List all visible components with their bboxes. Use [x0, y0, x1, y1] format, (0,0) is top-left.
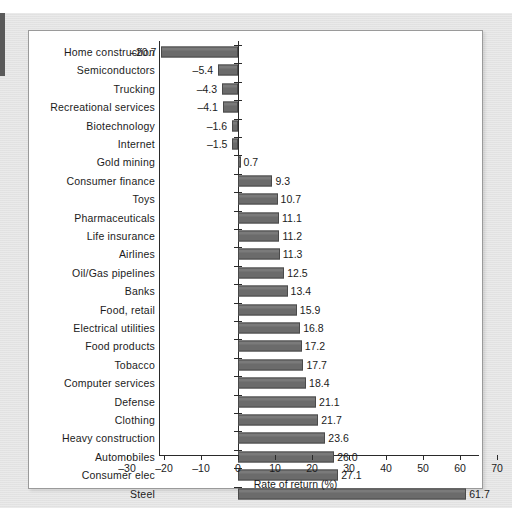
- category-label: Computer services: [64, 377, 155, 389]
- bar: [238, 249, 280, 260]
- bar: [218, 65, 238, 76]
- x-axis-tick: [497, 455, 498, 460]
- bar-chart-row: Food, retail15.9: [29, 301, 482, 319]
- value-label: 18.4: [309, 377, 329, 389]
- bar: [238, 157, 241, 168]
- bar-highlight: [239, 324, 299, 327]
- value-label: 9.3: [275, 175, 290, 187]
- bar-chart-row: Computer services18.4: [29, 374, 482, 392]
- bar-chart-row: Pharmaceuticals11.1: [29, 209, 482, 227]
- bar-highlight: [239, 232, 278, 235]
- x-axis-title: Rate of return (%): [29, 478, 482, 490]
- category-label: Heavy construction: [62, 432, 155, 444]
- value-label: 13.4: [291, 285, 311, 297]
- bar-highlight: [239, 452, 333, 455]
- bar: [238, 194, 278, 205]
- value-label: –4.3: [197, 83, 217, 95]
- category-label: Tobacco: [114, 359, 155, 371]
- category-label: Clothing: [115, 414, 155, 426]
- left-edge-strip: [0, 13, 5, 76]
- category-label: Gold mining: [97, 156, 155, 168]
- bar-highlight: [239, 379, 305, 382]
- x-axis-tick-label: –10: [192, 462, 210, 474]
- bar: [238, 359, 303, 370]
- bar-highlight: [162, 48, 237, 51]
- x-axis-tick-label: 10: [269, 462, 281, 474]
- bar-chart-row: Food products17.2: [29, 337, 482, 355]
- category-label: Food, retail: [100, 304, 155, 316]
- category-label: Defense: [114, 396, 155, 408]
- bar-chart-row: Biotechnology–1.6: [29, 117, 482, 135]
- bar-chart-row: Toys10.7: [29, 190, 482, 208]
- bar-highlight: [223, 84, 237, 87]
- category-label: Oil/Gas pipelines: [72, 267, 155, 279]
- category-label: Banks: [125, 285, 155, 297]
- value-label: 11.2: [282, 230, 302, 242]
- category-label: Electrical utilities: [73, 322, 155, 334]
- x-axis-tick-label: 70: [491, 462, 503, 474]
- page-root: Home construction–20.7Semiconductors–5.4…: [0, 0, 512, 520]
- bar-highlight: [239, 416, 317, 419]
- x-axis-tick: [386, 455, 387, 460]
- bar-chart-plot-area: Home construction–20.7Semiconductors–5.4…: [29, 31, 482, 488]
- bar: [238, 323, 300, 334]
- x-axis-tick: [460, 455, 461, 460]
- bar-highlight: [233, 121, 237, 124]
- category-label: Trucking: [113, 83, 155, 95]
- bar-chart-row: Internet–1.5: [29, 135, 482, 153]
- x-axis-tick: [238, 455, 239, 460]
- bar-chart-row: Trucking–4.3: [29, 80, 482, 98]
- value-label: –5.4: [193, 64, 213, 76]
- bar: [222, 83, 238, 94]
- x-axis-tick-label: –30: [118, 462, 136, 474]
- bar-highlight: [239, 250, 279, 253]
- value-label: 26.0: [337, 451, 357, 463]
- bar-highlight: [239, 195, 277, 198]
- category-label: Food products: [85, 340, 155, 352]
- bar-highlight: [239, 471, 337, 474]
- bar-highlight: [239, 360, 302, 363]
- value-label: 16.8: [303, 322, 323, 334]
- bar-highlight: [239, 305, 296, 308]
- bar: [223, 102, 238, 113]
- value-label: 21.1: [319, 396, 339, 408]
- bar: [238, 433, 325, 444]
- category-label: Airlines: [119, 248, 155, 260]
- value-label: 10.7: [281, 193, 301, 205]
- category-label: Pharmaceuticals: [74, 212, 155, 224]
- value-label: –1.5: [207, 138, 227, 150]
- value-label: 0.7: [244, 156, 259, 168]
- bar: [238, 231, 279, 242]
- bar-highlight: [239, 287, 287, 290]
- x-axis-tick: [201, 455, 202, 460]
- bar-highlight: [239, 268, 283, 271]
- bar-chart-row: Airlines11.3: [29, 245, 482, 263]
- value-label: –4.1: [197, 101, 217, 113]
- x-axis-tick-label: 40: [380, 462, 392, 474]
- bar: [238, 175, 272, 186]
- bar: [238, 396, 316, 407]
- bar-chart-row: Consumer finance9.3: [29, 172, 482, 190]
- value-label: –1.6: [207, 120, 227, 132]
- bar-highlight: [239, 434, 324, 437]
- bar: [238, 267, 284, 278]
- x-axis-tick-label: –20: [155, 462, 173, 474]
- value-label: 21.7: [321, 414, 341, 426]
- x-axis-tick: [423, 455, 424, 460]
- x-axis-tick-label: 50: [417, 462, 429, 474]
- x-axis-tick: [349, 455, 350, 460]
- bar: [238, 286, 288, 297]
- value-label: 12.5: [287, 267, 307, 279]
- bar-highlight: [224, 103, 237, 106]
- bar: [232, 120, 238, 131]
- bar-chart-row: Banks13.4: [29, 282, 482, 300]
- bar-highlight: [239, 342, 301, 345]
- x-axis-tick-label: 0: [235, 462, 241, 474]
- figure-card: Home construction–20.7Semiconductors–5.4…: [28, 30, 483, 489]
- x-axis-tick-label: 60: [454, 462, 466, 474]
- bar-chart-row: Heavy construction23.6: [29, 429, 482, 447]
- bar: [238, 304, 297, 315]
- category-label: Consumer finance: [66, 175, 155, 187]
- bar-highlight: [239, 158, 240, 161]
- category-label: Toys: [133, 193, 155, 205]
